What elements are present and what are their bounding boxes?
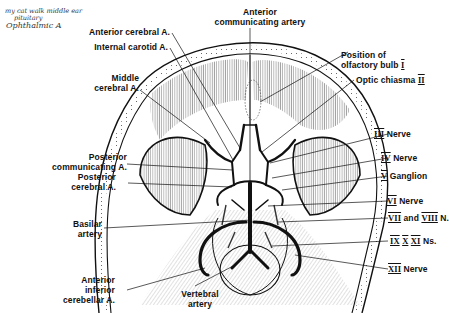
label-text: artery: [165, 299, 235, 309]
label-text: cerebral A.: [94, 83, 139, 93]
label-text: Nerve: [393, 153, 417, 163]
label-text: Nerve: [399, 196, 423, 206]
label-nerve-12: XII Nerve: [388, 264, 428, 274]
roman-numeral: VII: [388, 213, 401, 223]
roman-numeral: I: [401, 60, 404, 70]
roman-numeral: V: [381, 171, 387, 181]
label-text: Posterior: [71, 172, 116, 182]
label-text: Anterior: [63, 275, 115, 285]
label-text: Anterior: [210, 7, 310, 17]
label-nerve-7-8: VII and VIII N.: [388, 213, 449, 223]
label-ganglion-5: V Ganglion: [381, 171, 427, 181]
label-text: inferior: [63, 285, 115, 295]
label-nerve-4: IV Nerve: [381, 153, 417, 163]
label-text: communicating artery: [210, 17, 310, 27]
label-text: communicating A.: [52, 162, 127, 172]
label-text: cerebellar A.: [63, 295, 115, 305]
label-posterior-communicating-artery: Posterior communicating A.: [52, 152, 127, 172]
label-text: cerebral A.: [71, 182, 116, 192]
label-text: Anterior cerebral A.: [89, 27, 170, 37]
label-nerve-3: III Nerve: [374, 129, 411, 139]
label-text: Nerve: [404, 264, 428, 274]
label-anterior-cerebral-artery: Anterior cerebral A.: [89, 27, 170, 37]
label-text: olfactory bulb: [341, 60, 399, 70]
roman-numeral: III: [374, 129, 384, 139]
roman-numeral: VIII: [421, 213, 437, 223]
label-text: Posterior: [52, 152, 127, 162]
label-text: Ganglion: [390, 171, 428, 181]
roman-numeral: IX: [390, 236, 400, 246]
label-text: Optic chiasma: [356, 75, 415, 85]
label-anterior-inferior-cerebellar-artery: Anterior inferior cerebellar A.: [63, 275, 115, 305]
label-text: Basilar: [73, 219, 102, 229]
label-anterior-communicating-artery: Anterior communicating artery: [210, 7, 310, 27]
label-text: Middle: [94, 73, 139, 83]
label-text: N.: [440, 213, 449, 223]
label-internal-carotid-artery: Internal carotid A.: [94, 42, 168, 52]
roman-numeral: XII: [388, 264, 401, 274]
roman-numeral: VI: [387, 196, 397, 206]
label-vertebral-artery: Vertebral artery: [165, 289, 235, 309]
label-olfactory-bulb: Position of olfactory bulb I: [341, 50, 405, 70]
label-optic-chiasma: Optic chiasma II: [356, 75, 425, 85]
label-text: Nerve: [387, 129, 411, 139]
label-nerves-9-10-11: IX X XI Ns.: [390, 236, 437, 246]
roman-numeral: II: [418, 75, 425, 85]
label-text: Position of: [341, 50, 405, 60]
label-text: artery: [73, 229, 102, 239]
label-text: Ns.: [423, 236, 437, 246]
label-text: and: [404, 213, 419, 223]
label-text: Internal carotid A.: [94, 42, 168, 52]
roman-numeral: XI: [411, 236, 421, 246]
handwritten-note-3: Ophthalmic A: [6, 22, 61, 29]
roman-numeral: X: [402, 236, 408, 246]
label-text: Vertebral: [165, 289, 235, 299]
roman-numeral: IV: [381, 153, 391, 163]
label-basilar-artery: Basilar artery: [73, 219, 102, 239]
label-nerve-6: VI Nerve: [387, 196, 423, 206]
label-middle-cerebral-artery: Middle cerebral A.: [94, 73, 139, 93]
label-posterior-cerebral-artery: Posterior cerebral A.: [71, 172, 116, 192]
